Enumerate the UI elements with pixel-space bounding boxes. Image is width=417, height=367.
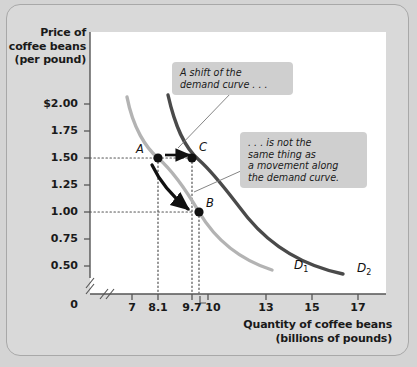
- y-tick-label: $2.00: [26, 97, 78, 110]
- x-tick-label: 13: [256, 301, 276, 314]
- curve-label-d1-text: D: [294, 258, 303, 272]
- x-tick-label: 9.7: [179, 301, 205, 314]
- x-axis-title: Quantity of coffee beans (billions of po…: [196, 318, 392, 345]
- y-axis-ticks: [84, 104, 90, 266]
- y-tick-label: 1.00: [26, 205, 78, 218]
- curve-label-d2-text: D: [357, 261, 366, 275]
- x-tick-label: 17: [348, 301, 368, 314]
- point-b: [194, 207, 203, 216]
- origin-label: 0: [26, 298, 78, 311]
- curve-label-d1-sub: 1: [303, 265, 308, 274]
- y-tick-label: 0.50: [26, 259, 78, 272]
- y-axis-title: Price of coffee beans (per pound): [6, 26, 86, 67]
- callout-movement: . . . is not the same thing as a movemen…: [240, 132, 367, 188]
- callout-movement-leader: [194, 170, 243, 192]
- point-c: [187, 153, 196, 162]
- y-tick-label: 1.50: [26, 151, 78, 164]
- x-tick-label: 10: [203, 301, 223, 314]
- curve-label-d1: D1: [294, 258, 308, 274]
- curve-label-d2: D2: [357, 261, 371, 277]
- callout-shift: A shift of the demand curve . . .: [172, 62, 293, 95]
- point-label-c: C: [199, 140, 207, 154]
- demand-curve-figure: Price of coffee beans (per pound) Quanti…: [0, 0, 417, 367]
- curve-label-d2-sub: 2: [366, 268, 371, 277]
- x-tick-label: 7: [122, 301, 142, 314]
- point-a: [153, 153, 162, 162]
- x-tick-label: 15: [302, 301, 322, 314]
- point-label-a: A: [136, 142, 144, 156]
- point-label-b: B: [206, 196, 214, 210]
- y-tick-label: 0.75: [26, 232, 78, 245]
- y-tick-label: 1.75: [26, 124, 78, 137]
- dotted-guides: [90, 158, 199, 293]
- y-tick-label: 1.25: [26, 178, 78, 191]
- x-tick-label: 8.1: [145, 301, 171, 314]
